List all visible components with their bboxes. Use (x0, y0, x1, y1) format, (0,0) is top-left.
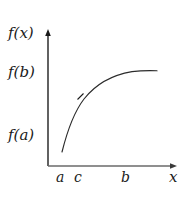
y-value-label-fa: f(a) (8, 128, 34, 143)
y-axis-label: f(x) (8, 26, 34, 41)
mean-value-theorem-figure: f(x) f(b) f(a) a c b x (0, 0, 191, 197)
x-tick-label-a: a (56, 170, 64, 184)
y-value-label-fb: f(b) (8, 65, 35, 80)
function-curve (62, 71, 157, 152)
x-tick-label-c: c (74, 170, 82, 184)
curve-point-marker-c (78, 94, 84, 100)
x-tick-label-b: b (121, 170, 130, 184)
y-axis-arrowhead (45, 29, 51, 36)
x-axis-label: x (169, 170, 177, 185)
